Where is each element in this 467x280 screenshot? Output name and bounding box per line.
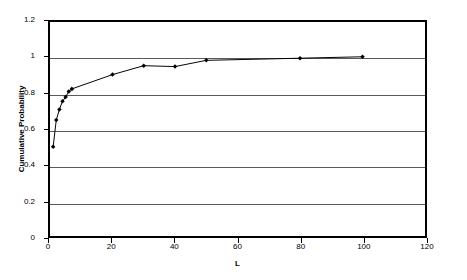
y-tick-mark	[44, 165, 49, 166]
x-tick-label: 60	[233, 243, 242, 251]
data-point-marker	[57, 107, 62, 112]
y-tick-mark	[44, 20, 49, 21]
data-point-marker	[141, 63, 146, 68]
y-axis-title: Cumulative Probability	[17, 86, 26, 173]
x-axis-title: L	[48, 259, 427, 268]
x-tick-label: 40	[170, 243, 179, 251]
series-line	[53, 57, 362, 147]
y-tick-mark	[44, 129, 49, 130]
data-point-marker	[173, 64, 178, 69]
x-tick-label: 80	[296, 243, 305, 251]
y-tick-mark	[44, 56, 49, 57]
x-tick-label: 100	[357, 243, 370, 251]
x-tick-mark	[427, 238, 428, 243]
x-tick-mark	[238, 238, 239, 243]
plot-area	[48, 20, 427, 238]
x-axis-tick-labels: 020406080100120	[48, 243, 427, 255]
x-tick-mark	[111, 238, 112, 243]
y-tick-mark	[44, 202, 49, 203]
x-tick-mark	[174, 238, 175, 243]
data-point-marker	[360, 55, 365, 60]
y-tick-label: 0	[31, 234, 35, 242]
data-point-marker	[298, 56, 303, 61]
y-axis-title-wrapper: Cumulative Probability	[14, 20, 28, 238]
x-tick-label: 0	[46, 243, 50, 251]
data-point-marker	[54, 118, 59, 123]
data-point-marker	[204, 58, 209, 63]
y-tick-mark	[44, 93, 49, 94]
x-tick-mark	[364, 238, 365, 243]
chart-figure: 00.20.40.60.811.2 020406080100120 L Cumu…	[0, 0, 467, 280]
data-point-marker	[51, 145, 56, 150]
x-tick-label: 120	[420, 243, 433, 251]
x-tick-mark	[301, 238, 302, 243]
x-tick-mark	[48, 238, 49, 243]
data-point-marker	[110, 72, 115, 77]
series-layer	[50, 22, 425, 236]
y-tick-label: 1	[31, 52, 35, 60]
x-tick-label: 20	[107, 243, 116, 251]
